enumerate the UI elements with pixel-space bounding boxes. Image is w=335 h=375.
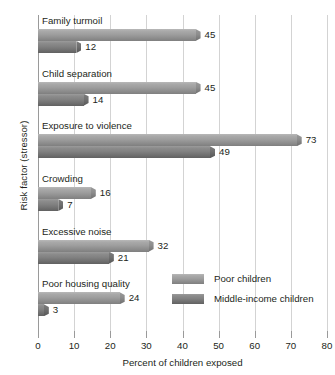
bar-group: Child separation4514 xyxy=(38,68,327,121)
bar-value-label: 16 xyxy=(100,186,111,199)
bar-value-label: 32 xyxy=(158,239,169,252)
bar-tip xyxy=(196,29,201,41)
bar-pair: 4512 xyxy=(38,29,327,53)
category-label: Family turmoil xyxy=(42,15,102,27)
x-tick-label: 70 xyxy=(279,340,303,352)
x-tick-label: 20 xyxy=(98,340,122,352)
x-tick-label: 10 xyxy=(62,340,86,352)
bar xyxy=(38,252,114,264)
bar-body xyxy=(38,41,76,53)
x-tick-label: 40 xyxy=(171,340,195,352)
bar-group: Family turmoil4512 xyxy=(38,15,327,68)
bar xyxy=(38,146,215,158)
legend-label: Middle-income children xyxy=(214,291,314,306)
bar-body xyxy=(38,94,84,106)
x-tick-label: 0 xyxy=(26,340,50,352)
bar-body xyxy=(38,146,210,158)
bar-tip xyxy=(44,304,49,316)
bar-row: 45 xyxy=(38,29,327,41)
bar-tip xyxy=(109,252,114,264)
bar-row: 12 xyxy=(38,41,327,53)
x-tick-label: 80 xyxy=(315,340,335,352)
bar-body xyxy=(38,252,109,264)
bar-value-label: 73 xyxy=(306,133,317,146)
bar-row: 32 xyxy=(38,240,327,252)
legend-item: Poor children xyxy=(172,272,332,289)
bar-row: 73 xyxy=(38,134,327,146)
bar-group: Crowding167 xyxy=(38,173,327,226)
bar-row: 16 xyxy=(38,187,327,199)
bar-value-label: 49 xyxy=(219,145,230,158)
bar-tip xyxy=(58,199,63,211)
x-tick-label: 60 xyxy=(243,340,267,352)
category-label: Crowding xyxy=(42,173,83,185)
bar-tip xyxy=(297,134,302,146)
bar-body xyxy=(38,292,120,304)
x-tick xyxy=(74,331,75,338)
x-tick xyxy=(255,331,256,338)
x-tick xyxy=(291,331,292,338)
legend-swatch-poor-children xyxy=(172,274,204,284)
bar-pair: 3221 xyxy=(38,240,327,264)
bar-value-label: 3 xyxy=(53,303,58,316)
bar-value-label: 21 xyxy=(118,251,129,264)
legend-item: Middle-income children xyxy=(172,292,332,309)
x-tick xyxy=(110,331,111,338)
bar-value-label: 12 xyxy=(85,40,96,53)
bar-pair: 4514 xyxy=(38,82,327,106)
bar-group: Excessive noise3221 xyxy=(38,226,327,279)
category-label: Poor housing quality xyxy=(42,278,130,290)
bar-pair: 167 xyxy=(38,187,327,211)
bar-row: 21 xyxy=(38,252,327,264)
legend-label: Poor children xyxy=(214,271,271,286)
chart-legend: Poor children Middle-income children xyxy=(172,272,332,312)
bar-group: Exposure to violence7349 xyxy=(38,120,327,173)
x-tick xyxy=(327,331,328,338)
bar-body xyxy=(38,240,149,252)
bar-body xyxy=(38,187,91,199)
bar xyxy=(38,29,201,41)
bar-tip xyxy=(120,292,125,304)
bar-value-label: 14 xyxy=(93,93,104,106)
x-tick xyxy=(219,331,220,338)
x-tick xyxy=(38,331,39,338)
bar-body xyxy=(38,134,297,146)
bar-row: 7 xyxy=(38,199,327,211)
category-label: Excessive noise xyxy=(42,226,111,238)
bar-tip xyxy=(76,41,81,53)
x-axis: Percent of children exposed 010203040506… xyxy=(38,331,327,375)
category-label: Child separation xyxy=(42,68,112,80)
bar-row: 45 xyxy=(38,82,327,94)
bar-chart: Risk factor (stressor) Family turmoil451… xyxy=(0,0,335,375)
bar xyxy=(38,41,81,53)
bar-tip xyxy=(91,187,96,199)
bar-tip xyxy=(210,146,215,158)
bar-pair: 7349 xyxy=(38,134,327,158)
bar xyxy=(38,94,89,106)
bar-tip xyxy=(149,240,154,252)
bar-tip xyxy=(196,82,201,94)
legend-swatch-middle-income-children xyxy=(172,294,204,304)
category-label: Exposure to violence xyxy=(42,120,132,132)
bar-body xyxy=(38,304,44,316)
bar-body xyxy=(38,29,196,41)
bar-body xyxy=(38,199,58,211)
y-axis-title: Risk factor (stressor) xyxy=(18,96,29,236)
bar-row: 14 xyxy=(38,94,327,106)
bar xyxy=(38,304,49,316)
x-tick-label: 50 xyxy=(207,340,231,352)
bar-row: 49 xyxy=(38,146,327,158)
bar-value-label: 24 xyxy=(129,291,140,304)
bar-value-label: 45 xyxy=(205,28,216,41)
bar-value-label: 7 xyxy=(67,198,72,211)
bar-tip xyxy=(84,94,89,106)
x-tick-label: 30 xyxy=(134,340,158,352)
x-axis-title: Percent of children exposed xyxy=(38,357,327,368)
x-tick xyxy=(146,331,147,338)
bar xyxy=(38,240,154,252)
bar-body xyxy=(38,82,196,94)
bar xyxy=(38,199,63,211)
bar-value-label: 45 xyxy=(205,81,216,94)
bar xyxy=(38,82,201,94)
bar xyxy=(38,134,302,146)
